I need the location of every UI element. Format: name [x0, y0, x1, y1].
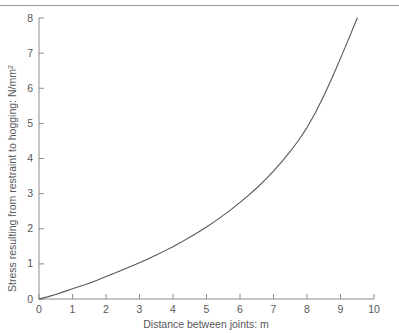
x-tick-label: 4	[170, 303, 176, 315]
x-tick-label: 0	[36, 303, 42, 315]
y-tick-label: 7	[27, 47, 33, 59]
y-tick-label: 4	[27, 152, 33, 164]
y-tick-label: 1	[27, 257, 33, 269]
x-tick-label: 10	[368, 303, 380, 315]
y-axis-title: Stress resulting from restraint to hoggi…	[6, 65, 18, 292]
y-axis-title-text: Stress resulting from restraint to hoggi…	[6, 69, 18, 292]
y-axis-ticks	[39, 18, 44, 299]
y-tick-label: 5	[27, 117, 33, 129]
y-tick-label: 6	[27, 82, 33, 94]
y-axis-title-superscript: 2	[7, 65, 14, 69]
x-axis-tick-labels: 0 1 2 3 4 5 6 7 8 9 10	[36, 303, 380, 315]
x-tick-label: 2	[103, 303, 109, 315]
x-axis-ticks	[39, 294, 374, 299]
figure-container: 0 1 2 3 4 5 6 7 8 0 1 2 3 4 5 6 7 8 9 10…	[0, 0, 399, 333]
x-tick-label: 6	[237, 303, 243, 315]
x-axis-title: Distance between joints: m	[143, 318, 269, 330]
y-tick-label: 3	[27, 187, 33, 199]
data-series-line	[39, 18, 357, 299]
x-tick-label: 7	[271, 303, 277, 315]
x-tick-label: 8	[304, 303, 310, 315]
x-tick-label: 1	[70, 303, 76, 315]
y-axis-tick-labels: 0 1 2 3 4 5 6 7 8	[27, 12, 33, 305]
y-tick-label: 2	[27, 222, 33, 234]
chart-plot: 0 1 2 3 4 5 6 7 8 0 1 2 3 4 5 6 7 8 9 10…	[0, 0, 399, 333]
y-tick-label: 0	[27, 293, 33, 305]
y-tick-label: 8	[27, 12, 33, 24]
x-tick-label: 3	[137, 303, 143, 315]
x-tick-label: 5	[204, 303, 210, 315]
x-tick-label: 9	[338, 303, 344, 315]
